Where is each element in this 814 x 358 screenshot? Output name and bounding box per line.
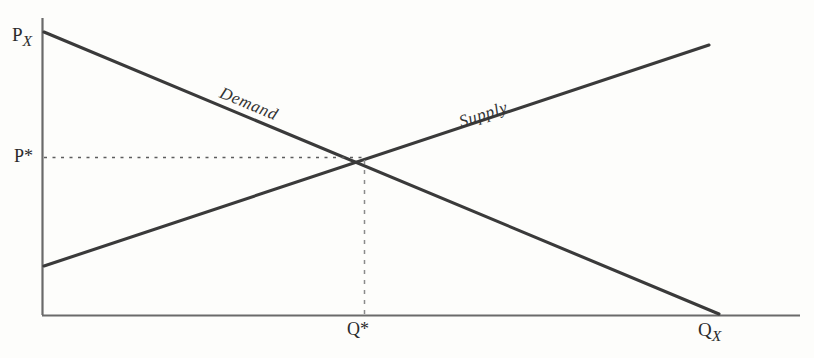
supply-demand-chart: PX P* Q* QX Demand Supply xyxy=(0,0,814,358)
y-axis-label: PX xyxy=(12,25,32,48)
equilibrium-price-label: P* xyxy=(14,147,33,165)
chart-canvas xyxy=(0,0,814,358)
y-axis-label-base: P xyxy=(12,24,23,45)
supply-curve xyxy=(44,45,709,266)
x-axis-label-base: Q xyxy=(698,319,712,340)
x-axis-label: QX xyxy=(698,320,721,343)
equilibrium-quantity-label: Q* xyxy=(347,320,369,338)
y-axis-label-subscript: X xyxy=(23,32,33,49)
x-axis-label-subscript: X xyxy=(712,327,722,344)
